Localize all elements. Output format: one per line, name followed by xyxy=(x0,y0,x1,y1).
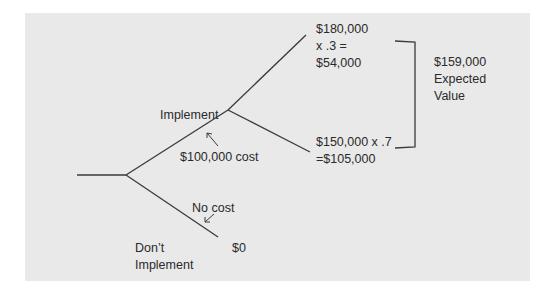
cost-arrow-icon xyxy=(207,133,218,146)
expected-value-bracket xyxy=(395,41,415,148)
decision-tree-lines xyxy=(0,0,555,294)
dont-implement-label-line1: Don’t xyxy=(135,240,164,257)
expected-value-amount: $159,000 xyxy=(434,54,486,71)
expected-value-label-line2: Value xyxy=(434,88,465,105)
dont-implement-label-line2: Implement xyxy=(135,257,193,274)
low-outcome-branch-line xyxy=(228,110,310,152)
dont-implement-outcome: $0 xyxy=(232,240,246,257)
high-outcome-line3: $54,000 xyxy=(316,55,361,72)
no-cost-label: No cost xyxy=(192,200,234,217)
low-outcome-line1: $150,000 x .7 xyxy=(316,134,392,151)
low-outcome-line2: =$105,000 xyxy=(316,151,375,168)
high-outcome-line2: x .3 = xyxy=(316,38,347,55)
implement-cost-label: $100,000 cost xyxy=(180,149,259,166)
high-outcome-branch-line xyxy=(228,35,306,110)
expected-value-label-line1: Expected xyxy=(434,71,486,88)
high-outcome-line1: $180,000 xyxy=(316,21,368,38)
implement-label: Implement xyxy=(160,107,218,124)
